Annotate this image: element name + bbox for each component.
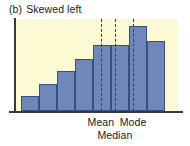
y-axis-line <box>14 18 16 112</box>
histogram-bar <box>129 26 147 111</box>
stat-labels-row-primary: Mean Mode <box>0 116 190 129</box>
caption-text: Skewed left <box>26 3 81 15</box>
plot-area <box>15 19 178 111</box>
reference-line-median <box>115 19 116 111</box>
histogram-bar <box>147 41 165 111</box>
histogram-bar <box>21 96 39 111</box>
reference-line-mode <box>133 19 134 111</box>
histogram-bars <box>15 19 178 111</box>
caption-index: (b) <box>9 3 22 15</box>
histogram-bar <box>93 45 111 111</box>
histogram-bar <box>111 45 129 111</box>
mean-label: Mean <box>88 116 115 128</box>
stat-labels-row-secondary: Median <box>0 129 190 142</box>
reference-line-mean <box>101 19 102 111</box>
median-label: Median <box>97 129 132 141</box>
histogram-bar <box>57 71 75 111</box>
mode-label: Mode <box>120 116 147 128</box>
x-axis-line <box>9 111 183 113</box>
histogram-bar <box>39 84 57 111</box>
histogram-bar <box>75 59 93 111</box>
figure-caption: (b)Skewed left <box>9 3 82 15</box>
figure-skewed-left-histogram: (b)Skewed left Mean Mode Median <box>0 0 190 146</box>
